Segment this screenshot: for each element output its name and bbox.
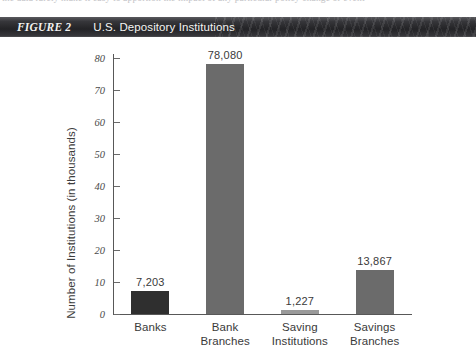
bar: 1,227Saving Institutions: [281, 310, 319, 314]
y-axis-tick-mark: [114, 218, 120, 219]
bar-value-label: 7,203: [136, 276, 165, 288]
figure-header-band: FIGURE 2 U.S. Depository Institutions: [0, 17, 476, 37]
x-axis-category-label: Savings Branches: [350, 321, 399, 348]
y-axis-tick-label: 80: [95, 53, 106, 64]
y-axis-tick-label: 0: [100, 309, 105, 320]
y-axis-tick-mark: [114, 154, 120, 155]
y-axis-tick-label: 40: [95, 181, 106, 192]
y-axis-tick-mark: [114, 250, 120, 251]
y-axis-tick-label: 70: [95, 85, 106, 96]
x-axis-category-label: Bank Branches: [200, 321, 249, 348]
y-axis-tick-mark: [114, 122, 120, 123]
x-axis-category-label: Banks: [134, 321, 166, 335]
bar-value-label: 1,227: [286, 295, 315, 307]
y-axis-tick-label: 60: [95, 117, 106, 128]
bar: 13,867Savings Branches: [356, 270, 394, 314]
bar-value-label: 13,867: [357, 255, 392, 267]
y-axis-tick-label: 20: [95, 245, 106, 256]
y-axis-tick-label: 50: [95, 149, 106, 160]
plot-area: 01020304050607080 7,203Banks78,080Bank B…: [113, 58, 412, 314]
bar: 78,080Bank Branches: [206, 64, 244, 314]
y-axis-tick-label: 30: [95, 213, 106, 224]
figure-title-label: U.S. Depository Institutions: [93, 21, 235, 33]
bar-chart: Number of Institutions (in thousands) 01…: [0, 37, 476, 357]
bar: 7,203Banks: [131, 291, 169, 314]
y-axis-tick-mark: [114, 282, 120, 283]
y-axis-title: Number of Institutions (in thousands): [62, 95, 80, 351]
figure-number-label: FIGURE 2: [17, 21, 71, 33]
y-axis-tick-mark: [114, 314, 120, 315]
y-axis-tick-label: 10: [95, 277, 106, 288]
bar-value-label: 78,080: [208, 49, 243, 61]
y-axis-line: [113, 54, 114, 314]
clipped-body-text-line: the data rarely make it easy to apportio…: [2, 0, 474, 3]
y-axis-tick-mark: [114, 186, 120, 187]
y-axis-tick-mark: [114, 58, 120, 59]
clipped-body-text: the data rarely make it easy to apportio…: [0, 0, 476, 11]
x-axis-category-label: Saving Institutions: [272, 321, 328, 348]
x-axis-line: [113, 314, 412, 315]
y-axis-tick-mark: [114, 90, 120, 91]
